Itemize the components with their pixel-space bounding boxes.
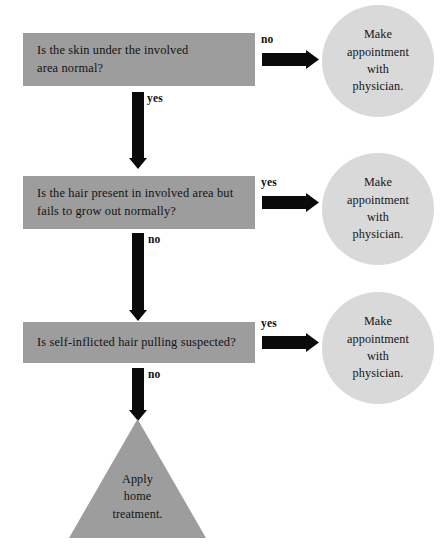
arrow-shaft (132, 92, 144, 158)
edge-label-box2-no: no (148, 233, 161, 245)
terminal-triangle-home-treatment-label: Apply home treatment. (69, 471, 206, 523)
edge-label-box3-yes: yes (261, 317, 277, 329)
edge-label-box3-no: no (148, 368, 161, 380)
decision-box-skin-normal[interactable]: Is the skin under the involved area norm… (23, 33, 255, 86)
decision-box-hair-present[interactable]: Is the hair present in involved area but… (23, 176, 255, 229)
edge-label-box1-yes: yes (147, 92, 163, 104)
arrow-head-right-icon (306, 50, 319, 69)
arrow-head-down-icon (129, 310, 147, 321)
edge-label-box1-no: no (261, 33, 274, 45)
terminal-circle-physician-1[interactable]: Make appointment with physician. (322, 5, 434, 117)
terminal-circle-physician-2-label: Make appointment with physician. (347, 174, 409, 243)
terminal-circle-physician-3-label: Make appointment with physician. (347, 313, 409, 382)
arrow-head-right-icon (306, 333, 319, 352)
arrow-shaft (262, 196, 306, 209)
decision-box-hair-pulling-label: Is self-inflicted hair pulling suspected… (23, 334, 244, 352)
arrow-head-down-icon (129, 158, 147, 169)
arrow-head-right-icon (306, 193, 319, 212)
terminal-circle-physician-3[interactable]: Make appointment with physician. (322, 292, 434, 404)
flowchart-canvas: Is the skin under the involved area norm… (0, 0, 442, 552)
edge-label-box2-yes: yes (261, 176, 277, 188)
decision-box-skin-normal-label: Is the skin under the involved area norm… (23, 42, 196, 78)
terminal-circle-physician-1-label: Make appointment with physician. (347, 26, 409, 95)
arrow-shaft (132, 368, 144, 410)
arrow-shaft (132, 233, 144, 310)
terminal-circle-physician-2[interactable]: Make appointment with physician. (322, 153, 434, 265)
arrow-shaft (262, 53, 306, 66)
arrow-shaft (262, 336, 306, 349)
terminal-triangle-home-treatment[interactable]: Apply home treatment. (69, 419, 206, 538)
decision-box-hair-present-label: Is the hair present in involved area but… (23, 185, 241, 221)
decision-box-hair-pulling[interactable]: Is self-inflicted hair pulling suspected… (23, 322, 255, 363)
